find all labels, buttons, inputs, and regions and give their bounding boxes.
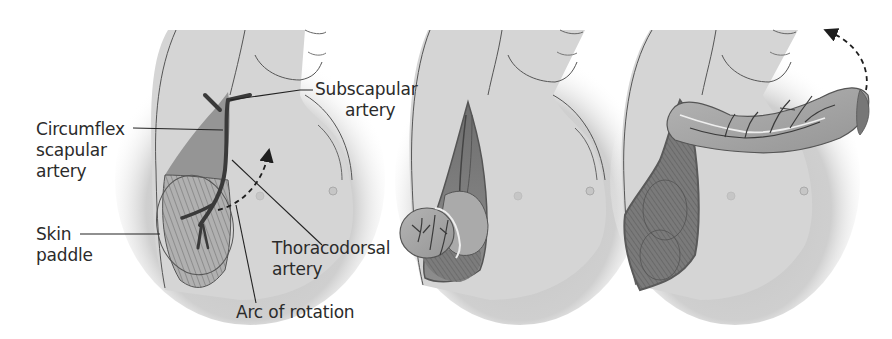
label-line: artery — [315, 100, 417, 121]
label-subscapular-artery: Subscapular artery — [315, 79, 417, 121]
anatomy-illustration — [0, 0, 892, 339]
label-line: artery — [36, 161, 125, 182]
label-arc-of-rotation: Arc of rotation — [236, 302, 354, 323]
label-line: artery — [272, 259, 390, 280]
label-line: Thoracodorsal — [272, 238, 390, 259]
label-skin-paddle: Skin paddle — [36, 224, 93, 266]
panel-2-torso — [395, 30, 645, 325]
label-line: scapular — [36, 140, 125, 161]
label-thoracodorsal-artery: Thoracodorsal artery — [272, 238, 390, 280]
label-line: Arc of rotation — [236, 302, 354, 323]
figure-canvas: Circumflex scapular artery Subscapular a… — [0, 0, 892, 339]
label-circumflex-scapular-artery: Circumflex scapular artery — [36, 119, 125, 182]
label-line: Circumflex — [36, 119, 125, 140]
label-line: paddle — [36, 245, 93, 266]
label-line: Skin — [36, 224, 93, 245]
label-line: Subscapular — [315, 79, 417, 100]
panel-3-torso — [610, 30, 869, 325]
